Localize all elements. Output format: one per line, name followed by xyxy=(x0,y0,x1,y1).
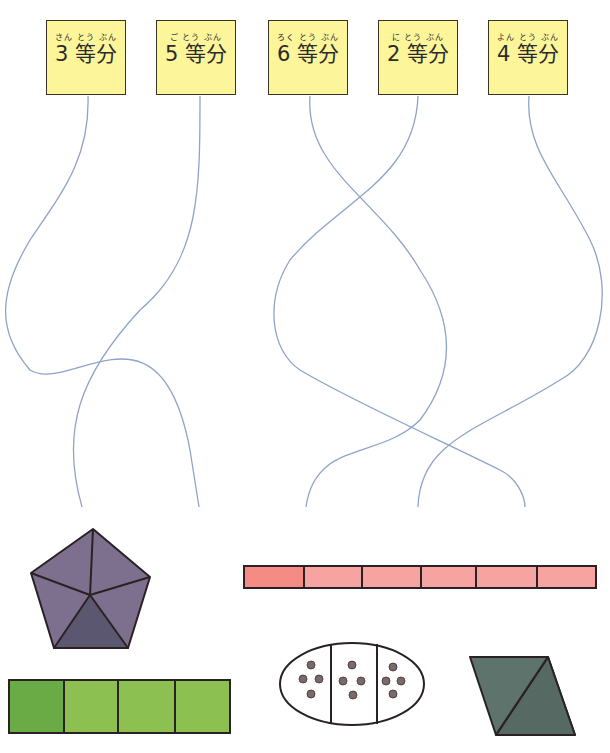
pink-bar-shape[interactable] xyxy=(244,566,596,588)
shapes-layer xyxy=(0,0,610,753)
pentagon-shape[interactable] xyxy=(31,529,150,648)
parallelogram-shape[interactable] xyxy=(470,657,575,735)
oval-dots-shape[interactable] xyxy=(280,643,424,725)
green-bar-shape[interactable] xyxy=(9,680,230,733)
